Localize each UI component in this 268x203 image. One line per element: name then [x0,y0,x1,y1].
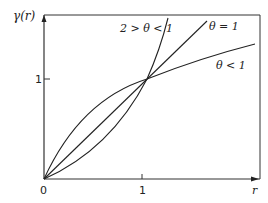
curve-linear [44,21,207,179]
x-tick-label: 1 [139,185,146,196]
y-axis-arrow-icon [42,15,47,22]
y-axis-label: γ(r) [13,10,35,22]
variogram-figure: γ(r) 1 0 1 r 2 > θ < 1 θ = 1 θ < 1 [0,0,268,203]
curve-concave-label: θ < 1 [216,60,246,71]
curve-steep [44,18,168,179]
y-tick-label: 1 [35,74,42,85]
x-axis-label: r [252,185,257,196]
curve-linear-label: θ = 1 [209,21,239,32]
x-axis-arrow-icon [251,177,259,182]
curve-steep-label: 2 > θ < 1 [120,23,173,34]
origin-label: 0 [40,185,47,196]
